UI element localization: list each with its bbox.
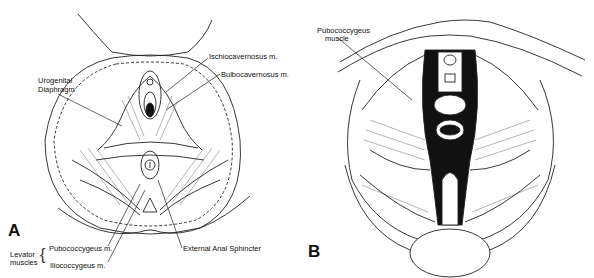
brace-icon: { — [40, 242, 45, 268]
label-bulbocavernosus: Bulbocavernosus m. — [221, 70, 289, 79]
label-pubococcygeus-a: Pubococcygeus m. — [49, 244, 112, 253]
panel-letter-a: A — [8, 221, 20, 241]
label-iliococcygeus: Iliococcygeus m. — [50, 261, 105, 270]
label-diaphragm: Diaphragm — [38, 85, 75, 94]
panel-a-perineal-muscles: Ischiocavernosus m. Bulbocavernosus m. U… — [0, 0, 300, 278]
panel-b-pelvic-floor: Pubococcygeus muscle B — [300, 0, 594, 278]
label-pubococcygeus-b-line2: muscle — [325, 34, 349, 43]
label-muscles: muscles — [10, 258, 38, 267]
perineum-illustration-a — [0, 0, 300, 278]
label-external-anal-sphincter: External Anal Sphincter — [183, 244, 261, 253]
panel-letter-b: B — [308, 242, 320, 262]
label-ischiocavernosus: Ischiocavernosus m. — [209, 52, 277, 61]
label-urogenital: Urogenital — [38, 76, 72, 85]
